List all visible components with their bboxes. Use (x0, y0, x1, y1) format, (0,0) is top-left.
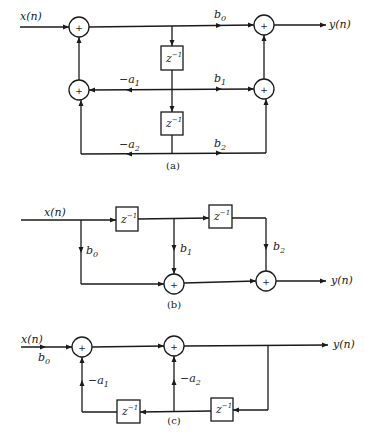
arrow-icon (140, 410, 146, 415)
arrow-icon (233, 408, 239, 413)
output-label-b: y(n) (330, 274, 353, 287)
input-label-c: x(n) (21, 333, 43, 346)
arrow-icon (216, 23, 222, 28)
arrow-icon (63, 25, 69, 30)
signal-flow-diagram: x(n) + b0 + y(n) z−1 z−1 + −a1 (0, 0, 365, 435)
arrow-icon (250, 279, 256, 284)
arrow-icon (89, 88, 95, 93)
arrow-icon (172, 245, 177, 251)
gain-b0-a: b0 (214, 8, 226, 23)
plus-icon: + (75, 86, 83, 96)
arrow-icon (79, 247, 84, 253)
gain-b2-a: b2 (214, 137, 226, 152)
arrow-icon (80, 357, 85, 363)
gain-b2-b: b2 (273, 240, 285, 255)
plus-icon: + (262, 277, 270, 287)
plus-icon: + (75, 23, 83, 33)
arrow-icon (203, 216, 209, 221)
arrow-icon (79, 100, 84, 106)
panel-a: x(n) + b0 + y(n) z−1 z−1 + −a1 (20, 8, 351, 171)
arrow-icon (80, 380, 85, 386)
arrow-icon (172, 379, 177, 385)
arrow-icon (170, 106, 175, 112)
gain-a2-a: −a2 (119, 138, 140, 153)
plus-icon: + (260, 21, 268, 31)
arrow-icon (262, 35, 267, 41)
arrow-icon (322, 343, 328, 348)
arrow-icon (66, 345, 72, 350)
arrow-icon (264, 99, 269, 105)
arrow-icon (158, 344, 164, 349)
gain-a1-c: −a1 (88, 374, 109, 389)
arrow-icon (170, 40, 175, 46)
gain-b0-c: b0 (38, 351, 50, 366)
gain-a2-c: −a2 (180, 372, 201, 387)
panel-b: x(n) z−1 z−1 b0 b1 + b2 + y(n) (b) (21, 205, 353, 310)
gain-a1-a: −a1 (119, 73, 140, 88)
arrow-icon (158, 282, 164, 287)
output-label-a: y(n) (328, 18, 351, 31)
input-label-b: x(n) (44, 206, 66, 219)
arrow-icon (264, 244, 269, 250)
caption-a: (a) (166, 160, 180, 171)
arrow-icon (172, 268, 177, 274)
caption-c: (c) (167, 415, 181, 426)
arrow-icon (320, 23, 326, 28)
plus-icon: + (260, 85, 268, 95)
arrow-icon (248, 23, 254, 28)
arrow-icon (320, 279, 326, 284)
arrow-icon (40, 345, 46, 350)
plus-icon: + (170, 342, 178, 352)
gain-b1-b: b1 (180, 242, 192, 257)
input-label-a: x(n) (20, 10, 42, 23)
output-label-c: y(n) (332, 338, 355, 351)
plus-icon: + (78, 343, 86, 353)
gain-b0-b: b0 (86, 244, 98, 259)
arrow-icon (248, 87, 254, 92)
arrow-icon (172, 356, 177, 362)
caption-b: (b) (167, 299, 181, 310)
arrow-icon (126, 152, 132, 157)
arrow-icon (126, 88, 132, 93)
arrow-icon (216, 87, 222, 92)
arrow-icon (110, 218, 116, 223)
arrow-icon (77, 37, 82, 43)
panel-c: x(n) b0 + + y(n) z−1 z−1 −a1 −a2 (21, 333, 355, 426)
plus-icon: + (170, 280, 178, 290)
gain-b1-a: b1 (214, 72, 226, 87)
